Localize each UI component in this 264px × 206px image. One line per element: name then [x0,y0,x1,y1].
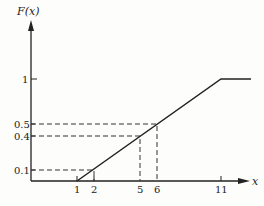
ytick-label-04: 0.4 [14,131,30,142]
ytick-label-05: 0.5 [14,119,30,130]
xtick-label-1: 1 [74,184,80,195]
xtick-label-5: 5 [137,184,143,195]
ytick-label-01: 0.1 [14,165,30,176]
x-axis-label: x [252,175,259,188]
y-axis-label: F(x) [16,5,39,18]
x-axis-arrow-icon [238,178,250,184]
cdf-line [77,79,251,181]
ytick-label-1: 1 [22,74,28,85]
cdf-chart: F(x) x 1 0.5 0.4 0.1 1 2 5 6 11 [0,0,264,206]
xtick-label-6: 6 [154,184,160,195]
xtick-label-11: 11 [215,184,228,195]
y-axis-arrow-icon [28,20,34,31]
dashed-guides [31,124,157,181]
xtick-label-2: 2 [91,184,97,195]
